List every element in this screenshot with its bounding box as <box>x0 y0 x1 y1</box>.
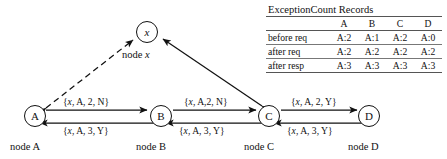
caption-node-d: node D <box>348 142 379 153</box>
cell-after-resp-b: A:3 <box>358 59 386 73</box>
caption-node-a: node A <box>10 142 40 153</box>
edge-label-bc-bottom: {x, A, 3, Y} <box>178 126 226 136</box>
caption-node-x-prefix: node <box>122 49 145 60</box>
cell-before-req-a: A:2 <box>330 31 358 45</box>
edge-label-ab-top: {x, A, 2, N} <box>62 97 110 107</box>
node-x-label: x <box>145 27 150 38</box>
table-row: after resp A:3 A:3 A:3 A:3 <box>266 59 442 73</box>
cell-before-req-b: A:1 <box>358 31 386 45</box>
edge-label-cd-top: {x, A, 2, Y} <box>290 97 338 107</box>
node-c-label: C <box>265 111 272 122</box>
node-x[interactable]: x <box>136 21 158 43</box>
rest: , A, 2, N} <box>72 96 109 107</box>
cell-after-req-d: A:2 <box>414 45 442 59</box>
rest: , A, 2, Y} <box>300 96 337 107</box>
table-title: ExceptionCount Records <box>266 4 442 16</box>
rest: , A, 3, Y} <box>72 125 109 136</box>
cell-after-resp-a: A:3 <box>330 59 358 73</box>
row-label-before-req: before req <box>266 31 330 45</box>
column-header-b: B <box>358 17 386 31</box>
cell-before-req-c: A:2 <box>386 31 414 45</box>
edge-label-ab-bottom: {x, A, 3, Y} <box>62 126 110 136</box>
caption-node-c: node C <box>244 142 274 153</box>
table-row: after req A:2 A:2 A:2 A:2 <box>266 45 442 59</box>
cell-after-resp-d: A:3 <box>414 59 442 73</box>
column-header-blank <box>266 17 330 31</box>
node-b-label: B <box>157 111 164 122</box>
rest: , A,2, N} <box>193 96 228 107</box>
rest: , A, 3, Y} <box>188 125 225 136</box>
column-header-d: D <box>414 17 442 31</box>
exception-count-records-table: ExceptionCount Records A B C D before re… <box>266 4 442 73</box>
caption-node-x-symbol: x <box>145 49 150 60</box>
cell-after-resp-c: A:3 <box>386 59 414 73</box>
column-header-a: A <box>330 17 358 31</box>
cell-after-req-c: A:2 <box>386 45 414 59</box>
cell-before-req-d: A:0 <box>414 31 442 45</box>
cell-after-req-b: A:2 <box>358 45 386 59</box>
column-header-c: C <box>386 17 414 31</box>
table-row: before req A:2 A:1 A:2 A:0 <box>266 31 442 45</box>
node-a-label: A <box>31 111 39 122</box>
caption-node-x: node x <box>122 50 150 61</box>
caption-node-b: node B <box>136 142 166 153</box>
node-d[interactable]: D <box>358 105 380 127</box>
records-grid: A B C D before req A:2 A:1 A:2 A:0 after… <box>266 16 442 73</box>
node-d-label: D <box>365 111 373 122</box>
edge-label-bc-top: {x, A,2, N} <box>183 97 229 107</box>
node-b[interactable]: B <box>150 105 172 127</box>
cell-after-req-a: A:2 <box>330 45 358 59</box>
row-label-after-resp: after resp <box>266 59 330 73</box>
rest: , A, 3, Y} <box>296 125 333 136</box>
row-label-after-req: after req <box>266 45 330 59</box>
table-header-row: A B C D <box>266 17 442 31</box>
figure-root: x A B C D node x node A node B node C no… <box>0 0 447 159</box>
node-c[interactable]: C <box>258 105 280 127</box>
edge-label-cd-bottom: {x, A, 3, Y} <box>286 126 334 136</box>
node-a[interactable]: A <box>24 105 46 127</box>
